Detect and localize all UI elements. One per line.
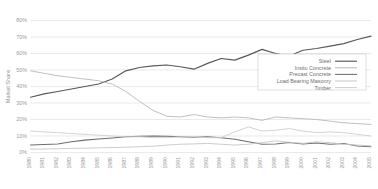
x-axis-tick-label: 1990 [162, 157, 168, 169]
x-axis-tick-label: 2004 [352, 157, 358, 169]
y-axis-tick-label: 20% [16, 116, 27, 122]
x-axis-tick-label: 2005 [366, 157, 372, 169]
x-axis-tick-label: 2000 [298, 157, 304, 169]
x-axis-tick-label: 1982 [53, 157, 59, 169]
x-axis-tick-label: 1980 [26, 157, 32, 169]
legend-label: Insitu Concrete [295, 65, 331, 71]
x-axis-tick-label: 1987 [121, 157, 127, 169]
x-axis-tick-label: 1996 [243, 157, 249, 169]
x-axis-tick-label: 1981 [39, 157, 45, 169]
y-axis-tick-label: 10% [16, 133, 27, 139]
x-axis-tick-label: 2001 [312, 157, 318, 169]
y-axis-tick-label: 50% [16, 67, 27, 73]
y-axis-tick-label: 60% [16, 50, 27, 56]
x-axis-tick-label: 1983 [66, 157, 72, 169]
x-axis-tick-label: 1989 [148, 157, 154, 169]
legend-label: Precast Concrete [289, 71, 331, 77]
line-chart: 0%10%20%30%40%50%60%70%80%Market Share19… [0, 0, 378, 189]
y-axis-tick-label: 80% [16, 17, 27, 23]
y-axis-title: Market Share [5, 70, 11, 104]
x-axis-tick-label: 1993 [203, 157, 209, 169]
legend-label: Steel [319, 58, 331, 64]
x-axis-tick-label: 1992 [189, 157, 195, 169]
x-axis-tick-label: 2002 [325, 157, 331, 169]
y-axis-tick-label: 70% [16, 34, 27, 40]
y-axis-tick-label: 0% [19, 149, 27, 155]
legend-label: Timber [314, 85, 331, 91]
y-axis-tick-label: 40% [16, 83, 27, 89]
legend-label: Load Bearing Masonry [277, 78, 332, 84]
x-axis-tick-label: 1999 [284, 157, 290, 169]
x-axis-tick-label: 1985 [94, 157, 100, 169]
x-axis-tick-label: 1995 [230, 157, 236, 169]
y-axis-tick-label: 30% [16, 100, 27, 106]
x-axis-tick-label: 1997 [257, 157, 263, 169]
x-axis-tick-label: 2003 [339, 157, 345, 169]
x-axis-tick-label: 1998 [271, 157, 277, 169]
chart-container: 0%10%20%30%40%50%60%70%80%Market Share19… [0, 0, 378, 189]
x-axis-tick-label: 1988 [134, 157, 140, 169]
x-axis-tick-label: 1994 [216, 157, 222, 169]
x-axis-tick-label: 1984 [80, 157, 86, 169]
x-axis-tick-label: 1986 [107, 157, 113, 169]
x-axis-tick-label: 1991 [175, 157, 181, 169]
series-line-load-bearing-masonry [31, 141, 372, 149]
